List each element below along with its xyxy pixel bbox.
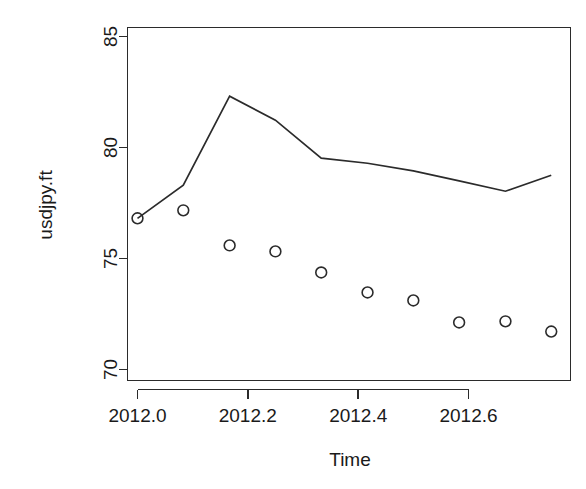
x-tick-label-2012-2: 2012.2 xyxy=(219,405,277,426)
data-point xyxy=(500,316,511,327)
plot-box xyxy=(128,28,571,381)
y-tick-label-75: 75 xyxy=(100,248,121,269)
data-point xyxy=(178,205,189,216)
y-axis-title: usdjpy.ft xyxy=(35,170,56,240)
series-layer xyxy=(132,96,557,337)
fitted-line-series xyxy=(138,96,552,218)
data-point xyxy=(270,246,281,257)
y-tick-label-80: 80 xyxy=(100,137,121,158)
chart-canvas: 85 80 75 70 2012.0 2012.2 2012.4 2012.6 … xyxy=(0,0,586,489)
data-point xyxy=(546,326,557,337)
data-point xyxy=(454,317,465,328)
x-axis: 2012.0 2012.2 2012.4 2012.6 xyxy=(108,390,497,427)
data-point xyxy=(316,267,327,278)
y-tick-label-85: 85 xyxy=(100,26,121,47)
x-tick-label-2012-4: 2012.4 xyxy=(329,405,388,426)
x-tick-label-2012-0: 2012.0 xyxy=(108,405,166,426)
data-point xyxy=(408,295,419,306)
data-point xyxy=(224,240,235,251)
x-axis-title: Time xyxy=(329,449,371,470)
data-point xyxy=(362,287,373,298)
observed-points-series xyxy=(132,205,557,337)
y-axis: 85 80 75 70 xyxy=(100,26,128,380)
chart-figure: 85 80 75 70 2012.0 2012.2 2012.4 2012.6 … xyxy=(0,0,586,489)
x-tick-label-2012-6: 2012.6 xyxy=(439,405,497,426)
y-tick-label-70: 70 xyxy=(100,359,121,380)
